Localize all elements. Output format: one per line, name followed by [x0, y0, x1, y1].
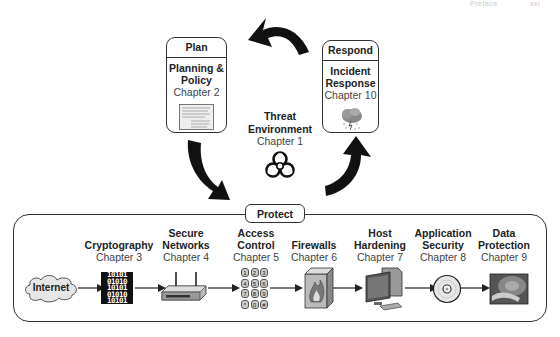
keypad-key: 2: [251, 268, 259, 277]
router-icon: [160, 270, 208, 306]
keypad-key: #: [260, 300, 268, 309]
keypad-key: 9: [260, 289, 268, 298]
item-data-protection: Data Protection Chapter 9: [459, 227, 549, 263]
item-title-line1: Access: [211, 227, 301, 239]
item-title-line2: Protection: [459, 239, 549, 251]
keypad-key: 5: [251, 279, 259, 288]
item-chapter: Chapter 9: [459, 251, 549, 263]
internet-label: Internet: [22, 282, 80, 293]
keypad-key: 3: [260, 268, 268, 277]
keypad-key: 8: [251, 289, 259, 298]
firewall-icon: [301, 266, 335, 310]
keypad-key: 0: [251, 300, 259, 309]
item-title-line1: Data: [459, 227, 549, 239]
keypad-key: 4: [241, 279, 249, 288]
hard-drive-icon: [490, 274, 528, 304]
computer-icon: [364, 266, 406, 310]
disc-icon: [432, 274, 462, 304]
binary-icon: 10101 01010 10101 01010 10101: [101, 272, 133, 304]
binary-row: 10101: [101, 298, 133, 304]
keypad-key: 1: [241, 268, 249, 277]
keypad-icon: 1 2 3 4 5 6 7 8 9 * 0 #: [241, 268, 269, 308]
protect-flow-arrows: [0, 0, 560, 337]
keypad-key: 7: [241, 289, 249, 298]
keypad-key: *: [241, 300, 249, 309]
keypad-key: 6: [260, 279, 268, 288]
